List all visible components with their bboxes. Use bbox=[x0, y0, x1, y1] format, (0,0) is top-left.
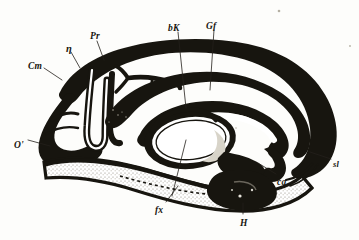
leader-line-eta bbox=[71, 52, 80, 68]
label-O-prime: O' bbox=[14, 141, 24, 151]
label-bK: bK bbox=[168, 24, 180, 34]
label-Gf: Gf bbox=[206, 22, 216, 32]
brain-section-illustration bbox=[0, 0, 359, 240]
figure-root: Cm η Pr bK Gf O' sl ca fx H bbox=[0, 0, 359, 240]
label-Cm: Cm bbox=[28, 62, 42, 72]
label-Pr: Pr bbox=[90, 32, 100, 42]
leader-line-Cm bbox=[44, 68, 62, 80]
label-ca: ca bbox=[277, 178, 286, 188]
label-sl: sl bbox=[333, 160, 339, 169]
label-H: H bbox=[240, 219, 248, 229]
label-eta: η bbox=[66, 44, 72, 55]
label-fx: fx bbox=[155, 206, 163, 216]
